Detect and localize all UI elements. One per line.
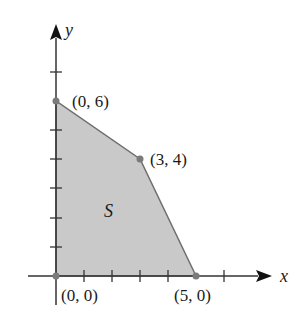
label-0-0: (0, 0) bbox=[61, 286, 98, 305]
y-axis-label: y bbox=[63, 20, 73, 40]
y-axis-arrow-icon bbox=[50, 24, 62, 40]
label-0-6: (0, 6) bbox=[72, 92, 109, 111]
x-axis-label: x bbox=[279, 266, 288, 286]
region-s bbox=[56, 101, 196, 276]
x-axis-arrow-icon bbox=[256, 270, 272, 282]
point-0-0 bbox=[53, 273, 60, 280]
point-0-6 bbox=[53, 98, 60, 105]
point-5-0 bbox=[193, 273, 200, 280]
feasible-region-diagram: y x S (0, 6) (3, 4) (0, 0) (5, 0) bbox=[0, 0, 308, 334]
region-label: S bbox=[104, 201, 113, 221]
point-3-4 bbox=[137, 156, 144, 163]
label-3-4: (3, 4) bbox=[150, 150, 187, 169]
label-5-0: (5, 0) bbox=[174, 286, 211, 305]
